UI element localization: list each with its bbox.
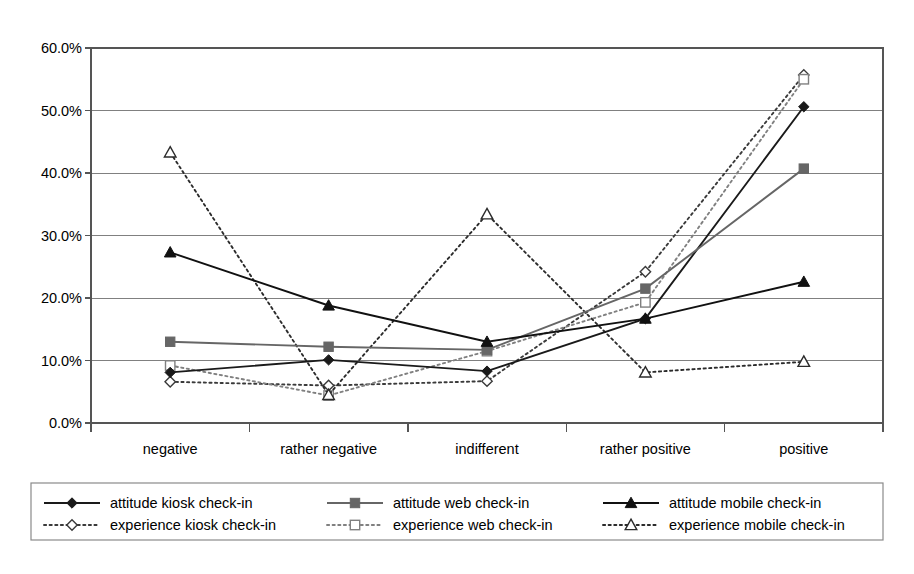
y-axis-tick-label: 20.0% [41, 290, 82, 306]
legend-label: attitude web check-in [393, 495, 529, 511]
data-point-marker [166, 337, 175, 346]
y-axis-tick-label: 50.0% [41, 103, 82, 119]
x-axis-tick-label: rather positive [600, 441, 691, 457]
x-axis-tick-label: indifferent [455, 441, 518, 457]
legend-label: attitude kiosk check-in [110, 495, 253, 511]
y-axis-ticks [85, 48, 91, 423]
data-point-marker [798, 276, 810, 286]
x-axis-tick-label: rather negative [280, 441, 377, 457]
line-chart: 0.0%10.0%20.0%30.0%40.0%50.0%60.0% negat… [0, 0, 914, 574]
y-axis-tick-label: 60.0% [41, 40, 82, 56]
x-axis-tick-label: negative [143, 441, 198, 457]
data-point-marker [164, 247, 176, 257]
data-point-marker [164, 147, 176, 157]
data-point-marker [641, 284, 650, 293]
y-axis-tick-labels: 0.0%10.0%20.0%30.0%40.0%50.0%60.0% [41, 40, 82, 431]
y-axis-tick-label: 0.0% [49, 415, 82, 431]
x-axis-tick-labels: negativerather negativeindifferentrather… [143, 441, 829, 457]
legend-label: experience web check-in [393, 517, 553, 533]
chart-svg: 0.0%10.0%20.0%30.0%40.0%50.0%60.0% negat… [0, 0, 914, 574]
x-axis-tick-label: positive [779, 441, 828, 457]
data-point-marker [323, 355, 333, 365]
data-point-marker [482, 366, 492, 376]
legend-label: attitude mobile check-in [669, 495, 821, 511]
data-point-marker [641, 298, 650, 307]
series-line [170, 169, 804, 350]
data-point-marker [799, 164, 808, 173]
data-point-marker [482, 376, 492, 386]
data-series-group [164, 70, 809, 401]
x-axis-ticks [91, 423, 883, 432]
y-axis-tick-label: 10.0% [41, 353, 82, 369]
legend-label: experience kiosk check-in [110, 517, 276, 533]
data-point-marker [481, 208, 493, 218]
series-attitude-web-check-in [166, 164, 809, 355]
data-point-marker [799, 75, 808, 84]
series-experience-mobile-check-in [164, 147, 809, 400]
series-line [170, 152, 804, 395]
data-point-marker [350, 498, 359, 507]
legend-label: experience mobile check-in [669, 517, 845, 533]
series-attitude-mobile-check-in [164, 247, 809, 347]
y-axis-tick-label: 40.0% [41, 165, 82, 181]
data-point-marker [324, 342, 333, 351]
y-axis-tick-label: 30.0% [41, 228, 82, 244]
data-point-marker [350, 520, 359, 529]
